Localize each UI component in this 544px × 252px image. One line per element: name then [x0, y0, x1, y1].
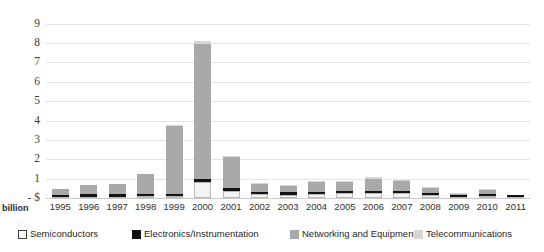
bar-segment-electronics-instrumentation-2011 [507, 195, 524, 197]
y-axis-tick-1: 1 [0, 173, 40, 185]
bar-segment-semiconductors-2003 [280, 195, 297, 198]
bar-segment-electronics-instrumentation-1996 [80, 194, 97, 196]
bar-segment-electronics-instrumentation-1997 [109, 194, 126, 196]
bar-2005 [336, 16, 353, 198]
legend-swatch-icon-net [290, 230, 299, 239]
chart-legend: SemiconductorsElectronics/Instrumentatio… [0, 228, 544, 246]
bar-segment-networking-equipment-2006 [365, 179, 382, 191]
x-axis-tick-2004: 2004 [302, 201, 330, 212]
x-axis-tick-1999: 1999 [160, 201, 188, 212]
axis-baseline [46, 198, 530, 199]
x-axis-tick-2009: 2009 [445, 201, 473, 212]
legend-item-tele[interactable]: Telecommunications [414, 228, 512, 240]
bar-segment-networking-equipment-2007 [393, 181, 410, 191]
bar-segment-networking-equipment-1999 [166, 126, 183, 195]
y-axis-tick-2: 2 [0, 153, 40, 165]
bar-segment-semiconductors-2001 [223, 191, 240, 198]
bar-2007 [393, 16, 410, 198]
x-axis-tick-2011: 2011 [502, 201, 530, 212]
bar-segment-telecommunications-2004 [308, 181, 325, 182]
legend-swatch-icon-semi [18, 230, 27, 239]
bars-layer [46, 16, 530, 198]
bar-2002 [251, 16, 268, 198]
legend-label: Semiconductors [30, 228, 98, 240]
bar-segment-semiconductors-2007 [393, 193, 410, 198]
bar-1999 [166, 16, 183, 198]
y-axis-tick-9: 9 [0, 18, 40, 30]
bar-2004 [308, 16, 325, 198]
bar-segment-semiconductors-2002 [251, 194, 268, 198]
bar-2003 [280, 16, 297, 198]
y-axis-tick-4: 4 [0, 115, 40, 127]
stacked-bar-chart: 987654321- $ billion 1995199619971998199… [0, 0, 544, 252]
bar-2000 [194, 16, 211, 198]
bar-segment-telecommunications-2008 [422, 187, 439, 188]
bar-segment-electronics-instrumentation-2006 [365, 191, 382, 193]
bar-segment-telecommunications-1999 [166, 125, 183, 126]
bar-segment-telecommunications-2005 [336, 181, 353, 182]
bar-segment-electronics-instrumentation-2007 [393, 191, 410, 193]
bar-2009 [450, 16, 467, 198]
bar-2006 [365, 16, 382, 198]
bar-segment-electronics-instrumentation-1999 [166, 194, 183, 196]
legend-item-net[interactable]: Networking and Equipment [290, 228, 416, 240]
bar-segment-electronics-instrumentation-2000 [194, 179, 211, 182]
x-axis-tick-2007: 2007 [388, 201, 416, 212]
bar-2011 [507, 16, 524, 198]
bar-segment-electronics-instrumentation-2009 [450, 195, 467, 197]
x-axis-tick-2002: 2002 [245, 201, 273, 212]
x-axis-tick-2003: 2003 [274, 201, 302, 212]
x-axis-tick-2001: 2001 [217, 201, 245, 212]
x-axis-tick-1996: 1996 [74, 201, 102, 212]
bar-segment-semiconductors-2006 [365, 193, 382, 198]
bar-segment-electronics-instrumentation-1998 [137, 194, 154, 196]
bar-segment-semiconductors-2010 [479, 196, 496, 198]
x-axis-tick-1998: 1998 [131, 201, 159, 212]
bar-segment-networking-equipment-2001 [223, 157, 240, 189]
bar-segment-networking-equipment-2004 [308, 182, 325, 192]
x-axis-tick-2005: 2005 [331, 201, 359, 212]
y-axis-tick-: - $ [0, 192, 40, 204]
y-axis-tick-7: 7 [0, 56, 40, 68]
y-axis-unit-label: billion [0, 203, 42, 213]
x-axis-tick-1995: 1995 [46, 201, 74, 212]
bar-segment-electronics-instrumentation-1995 [52, 195, 69, 197]
bar-2001 [223, 16, 240, 198]
bar-segment-telecommunications-2003 [280, 185, 297, 186]
x-axis-tick-1997: 1997 [103, 201, 131, 212]
bar-segment-semiconductors-2005 [336, 193, 353, 198]
bar-segment-electronics-instrumentation-2005 [336, 191, 353, 193]
y-axis-tick-5: 5 [0, 95, 40, 107]
legend-item-elec[interactable]: Electronics/Instrumentation [132, 228, 259, 240]
bar-segment-telecommunications-2001 [223, 156, 240, 157]
bar-segment-semiconductors-2004 [308, 194, 325, 198]
bar-segment-networking-equipment-2000 [194, 44, 211, 179]
y-axis-tick-8: 8 [0, 37, 40, 49]
bar-segment-electronics-instrumentation-2003 [280, 192, 297, 194]
legend-label: Telecommunications [426, 228, 512, 240]
x-axis-tick-2000: 2000 [188, 201, 216, 212]
bar-segment-telecommunications-2007 [393, 180, 410, 181]
x-axis-tick-2010: 2010 [473, 201, 501, 212]
bar-segment-semiconductors-2000 [194, 182, 211, 198]
legend-swatch-icon-tele [414, 230, 423, 239]
bar-segment-telecommunications-2000 [194, 41, 211, 44]
x-axis-tick-2008: 2008 [416, 201, 444, 212]
legend-item-semi[interactable]: Semiconductors [18, 228, 98, 240]
bar-segment-telecommunications-2002 [251, 183, 268, 184]
legend-swatch-icon-elec [132, 230, 141, 239]
bar-segment-telecommunications-2010 [479, 189, 496, 190]
bar-segment-semiconductors-1999 [166, 196, 183, 198]
bar-segment-electronics-instrumentation-2008 [422, 193, 439, 195]
bar-segment-electronics-instrumentation-2001 [223, 188, 240, 190]
bar-2008 [422, 16, 439, 198]
legend-label: Electronics/Instrumentation [144, 228, 259, 240]
bar-1995 [52, 16, 69, 198]
bar-segment-semiconductors-2008 [422, 195, 439, 198]
bar-segment-electronics-instrumentation-2004 [308, 192, 325, 194]
bar-2010 [479, 16, 496, 198]
y-axis-tick-6: 6 [0, 76, 40, 88]
bar-segment-networking-equipment-1998 [137, 174, 154, 195]
y-axis-tick-3: 3 [0, 134, 40, 146]
legend-label: Networking and Equipment [302, 228, 416, 240]
